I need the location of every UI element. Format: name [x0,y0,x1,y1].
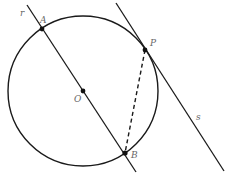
label-o: O [74,94,82,104]
geometry-diagram: r s A O B P [0,0,226,176]
point-a [40,27,45,32]
diagram-canvas: r s A O B P [0,0,226,176]
label-a: A [39,15,47,25]
label-b: B [130,150,138,160]
point-o [81,89,86,94]
label-p: P [149,38,157,48]
label-s: s [196,112,201,122]
label-r: r [20,8,25,18]
line-s-tangent [116,3,224,171]
point-p [143,48,148,53]
point-b [122,150,127,155]
